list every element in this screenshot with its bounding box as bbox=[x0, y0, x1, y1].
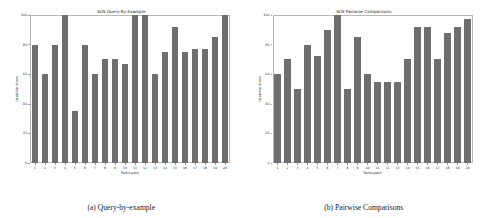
x-axis-tick-mark bbox=[145, 163, 146, 165]
x-axis-tick-label: 4 bbox=[60, 166, 70, 170]
x-axis-tick-label: 11 bbox=[130, 166, 140, 170]
x-axis-tick-mark bbox=[165, 163, 166, 165]
bar bbox=[384, 82, 390, 163]
bar bbox=[414, 27, 420, 163]
bar bbox=[344, 89, 350, 163]
y-axis-label: Usability Score bbox=[258, 64, 262, 114]
bar bbox=[304, 45, 310, 163]
bar bbox=[334, 15, 340, 163]
x-axis-tick-label: 11 bbox=[373, 166, 383, 170]
x-axis-tick-label: 7 bbox=[90, 166, 100, 170]
x-axis-tick-label: 13 bbox=[393, 166, 403, 170]
y-axis-tick-mark bbox=[28, 44, 30, 45]
x-axis-tick-label: 17 bbox=[190, 166, 200, 170]
bar bbox=[152, 74, 158, 163]
x-axis-tick-mark bbox=[407, 163, 408, 165]
x-axis-tick-mark bbox=[175, 163, 176, 165]
bar bbox=[212, 37, 218, 163]
x-axis-tick-label: 13 bbox=[150, 166, 160, 170]
x-axis-tick-mark bbox=[95, 163, 96, 165]
bar bbox=[444, 33, 450, 163]
bar bbox=[222, 15, 228, 163]
x-axis-tick-label: 18 bbox=[443, 166, 453, 170]
bar bbox=[404, 59, 410, 163]
bar bbox=[132, 15, 138, 163]
x-axis-tick-label: 9 bbox=[353, 166, 363, 170]
bar bbox=[182, 52, 188, 163]
bar bbox=[72, 111, 78, 163]
subfigure-caption: (b) Pairwise Comparisons bbox=[243, 203, 485, 212]
y-axis-tick-label: 100 bbox=[16, 13, 27, 17]
x-axis-tick-mark bbox=[155, 163, 156, 165]
y-axis-tick-mark bbox=[28, 74, 30, 75]
y-axis-tick-label: 20 bbox=[259, 131, 270, 135]
x-axis-tick-mark bbox=[347, 163, 348, 165]
x-axis-tick-label: 14 bbox=[160, 166, 170, 170]
x-axis-label: Participant bbox=[273, 171, 473, 175]
bar bbox=[464, 19, 470, 163]
y-axis-tick-label: 0 bbox=[259, 161, 270, 165]
y-axis-tick-label: 100 bbox=[259, 13, 270, 17]
axes-frame bbox=[273, 15, 473, 163]
x-axis-tick-label: 3 bbox=[50, 166, 60, 170]
x-axis-tick-label: 2 bbox=[283, 166, 293, 170]
y-axis-tick-mark bbox=[271, 163, 273, 164]
x-axis-tick-label: 15 bbox=[413, 166, 423, 170]
y-axis-label: Usability Score bbox=[15, 64, 19, 114]
x-axis-tick-mark bbox=[125, 163, 126, 165]
bar bbox=[102, 59, 108, 163]
bar bbox=[354, 37, 360, 163]
x-axis-tick-label: 16 bbox=[180, 166, 190, 170]
x-axis-tick-mark bbox=[277, 163, 278, 165]
x-axis-tick-label: 4 bbox=[303, 166, 313, 170]
bar bbox=[294, 89, 300, 163]
x-axis-tick-label: 17 bbox=[433, 166, 443, 170]
x-axis-tick-mark bbox=[35, 163, 36, 165]
x-axis-tick-label: 8 bbox=[343, 166, 353, 170]
x-axis-tick-mark bbox=[205, 163, 206, 165]
x-axis-tick-label: 6 bbox=[80, 166, 90, 170]
x-axis-tick-label: 9 bbox=[110, 166, 120, 170]
x-axis-tick-mark bbox=[105, 163, 106, 165]
x-axis-tick-mark bbox=[55, 163, 56, 165]
x-axis-tick-label: 1 bbox=[30, 166, 40, 170]
bar bbox=[202, 49, 208, 163]
x-axis-tick-label: 20 bbox=[220, 166, 230, 170]
x-axis-tick-mark bbox=[367, 163, 368, 165]
x-axis-tick-label: 12 bbox=[140, 166, 150, 170]
y-axis-tick-label: 20 bbox=[16, 131, 27, 135]
x-axis-tick-mark bbox=[327, 163, 328, 165]
bar bbox=[284, 59, 290, 163]
x-axis-tick-mark bbox=[75, 163, 76, 165]
x-axis-tick-label: 20 bbox=[463, 166, 473, 170]
x-axis-tick-label: 10 bbox=[363, 166, 373, 170]
x-axis-tick-mark bbox=[65, 163, 66, 165]
x-axis-tick-mark bbox=[427, 163, 428, 165]
bar bbox=[314, 56, 320, 163]
y-axis-tick-label: 0 bbox=[16, 161, 27, 165]
plot-area: SUS Query-By-Example020406080100Usabilit… bbox=[0, 0, 243, 190]
x-axis-tick-label: 8 bbox=[100, 166, 110, 170]
x-axis-tick-mark bbox=[357, 163, 358, 165]
x-axis-tick-label: 5 bbox=[313, 166, 323, 170]
bar bbox=[374, 82, 380, 163]
bar bbox=[454, 27, 460, 163]
chart-title: SUS Pairwise Comparisons bbox=[243, 9, 485, 14]
x-axis-tick-mark bbox=[387, 163, 388, 165]
y-axis-tick-label: 80 bbox=[259, 43, 270, 47]
x-axis-tick-mark bbox=[437, 163, 438, 165]
x-axis-tick-label: 6 bbox=[323, 166, 333, 170]
x-axis-tick-label: 19 bbox=[210, 166, 220, 170]
x-axis-tick-mark bbox=[115, 163, 116, 165]
bar bbox=[172, 27, 178, 163]
axes-frame bbox=[30, 15, 230, 163]
subfigure-pairwise-comparisons: SUS Pairwise Comparisons020406080100Usab… bbox=[243, 0, 485, 218]
x-axis-tick-label: 14 bbox=[403, 166, 413, 170]
plot-area: SUS Pairwise Comparisons020406080100Usab… bbox=[243, 0, 485, 190]
x-axis-tick-mark bbox=[397, 163, 398, 165]
y-axis-tick-mark bbox=[271, 74, 273, 75]
x-axis-tick-label: 19 bbox=[453, 166, 463, 170]
x-axis-tick-label: 5 bbox=[70, 166, 80, 170]
chart-title: SUS Query-By-Example bbox=[0, 9, 243, 14]
x-axis-tick-mark bbox=[45, 163, 46, 165]
